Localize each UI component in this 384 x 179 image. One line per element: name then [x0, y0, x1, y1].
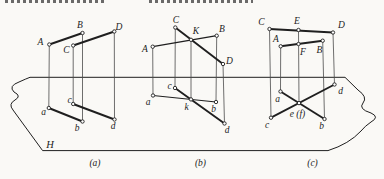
figure-b-label-c: c	[167, 81, 172, 91]
figure-b-point-a-marker	[151, 94, 154, 97]
figure-b-projection-segment-Bb	[216, 36, 217, 102]
figure-a-point-B-marker	[81, 31, 84, 34]
figure-c-point-F-marker	[297, 42, 300, 45]
figure-b-label-D: D	[225, 56, 233, 66]
figure-a-caption: (a)	[89, 158, 100, 169]
figure-a-label-D: D	[115, 22, 123, 32]
figure-c-point-D-marker	[331, 31, 334, 34]
figure-a-label-d: d	[111, 121, 116, 131]
figure-c-point-ef-marker	[297, 101, 300, 104]
figure-a-point-C-marker	[72, 44, 75, 47]
diagram-svg: ABCDabcd(a)ABCDKabckd(b)CEDABFadcbe (f)(…	[0, 0, 384, 179]
figure-c-label-C: C	[258, 17, 265, 27]
figure-a-label-a: a	[41, 107, 46, 117]
figure-c-label-D: D	[337, 20, 345, 30]
figure-b-point-k-marker	[189, 98, 192, 101]
figure-c-label-B: B	[317, 45, 323, 55]
figure-c-label-E: E	[293, 16, 300, 26]
figure-c-point-d-marker	[333, 83, 336, 86]
figure-a-edge-segment-cd	[73, 104, 114, 120]
figure-b-point-D-marker	[221, 62, 224, 65]
figure-a-label-b: b	[75, 123, 80, 133]
figure-b-caption: (b)	[195, 158, 206, 169]
figure-a-label-A: A	[37, 37, 44, 47]
figure-a-edge-segment-AB	[49, 33, 82, 45]
plane-label-H: H	[45, 139, 55, 150]
figure-a-point-c-marker	[72, 102, 75, 105]
figure-a-label-C: C	[63, 45, 70, 55]
figure-b-label-K: K	[192, 26, 200, 36]
figure-b-label-d: d	[225, 125, 230, 135]
projection-diagram-page: ABCDabcd(a)ABCDKabckd(b)CEDABFadcbe (f)(…	[0, 0, 384, 179]
figure-c-point-E-marker	[297, 28, 300, 31]
figure-a-point-A-marker	[48, 43, 51, 46]
figure-b-point-K-marker	[189, 38, 192, 41]
figure-a-point-a-marker	[47, 106, 50, 109]
figure-b-projection-segment-Dd	[223, 64, 225, 124]
figure-c-projection-segment-Cc	[270, 29, 272, 118]
figure-c-projection-segment-Bb	[323, 41, 325, 119]
figure-a-label-B: B	[77, 20, 83, 30]
figure-b-label-B: B	[219, 24, 225, 34]
figure-c-label-F: F	[299, 47, 306, 57]
figure-c-projection-segment-Eef	[299, 30, 300, 103]
figure-c-projection-segment-Dd	[333, 33, 335, 85]
figure-c-label-b: b	[319, 121, 324, 131]
figure-a-projection-segment-Aa	[49, 45, 50, 109]
figure-b-point-A-marker	[151, 45, 154, 48]
figure-b-edge-segment-cd	[175, 88, 225, 124]
figure-b-label-A: A	[141, 44, 148, 54]
figure-c-label-A: A	[272, 34, 279, 44]
figure-c-label-c: c	[265, 120, 270, 130]
figure-c-point-c-marker	[269, 116, 272, 119]
figure-c-label-a: a	[275, 94, 280, 104]
figure-b-label-a: a	[146, 97, 151, 107]
figure-b-label-C: C	[173, 15, 180, 25]
figure-c-caption: (c)	[307, 158, 318, 169]
figure-a-point-b-marker	[81, 120, 84, 123]
figure-b-label-b: b	[211, 104, 216, 114]
figure-c-label-ef: e (f)	[290, 109, 306, 120]
figure-c-point-A-marker	[279, 45, 282, 48]
figure-c-label-d: d	[338, 86, 343, 96]
figure-b-edge-segment-AB	[153, 36, 217, 47]
figure-b-point-C-marker	[174, 26, 177, 29]
figure-b-label-k: k	[184, 102, 189, 112]
figure-c-edge-segment-CD	[270, 29, 334, 33]
figure-c-point-C-marker	[268, 27, 271, 30]
figure-b-point-B-marker	[215, 34, 218, 37]
figure-b-point-c-marker	[173, 86, 176, 89]
figure-a-edge-segment-ab	[49, 108, 83, 122]
figure-c-point-B-marker	[321, 39, 324, 42]
